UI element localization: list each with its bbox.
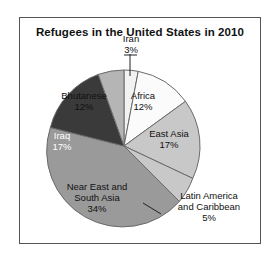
pie-label-near-east-name-line1: Near East and <box>67 181 128 192</box>
pie-label-iran-name: Iran <box>123 33 139 44</box>
pie-label-near-east-percent: 34% <box>42 203 152 214</box>
pie-label-latin-america-percent: 5% <box>160 212 258 223</box>
pie-label-near-east-name-line2: South Asia <box>42 192 152 203</box>
pie-label-iran: Iran 3% <box>96 33 166 55</box>
pie-label-near-east-south-asia: Near East and South Asia 34% <box>42 181 152 214</box>
pie-label-africa-name: Africa <box>131 90 155 101</box>
pie-label-east-asia: East Asia 17% <box>133 128 205 150</box>
pie-label-iraq: Iraq 17% <box>36 130 88 152</box>
pie-label-africa-percent: 12% <box>114 101 172 112</box>
pie-label-latin-america-name-line1: Latin America <box>180 190 238 201</box>
chart-frame: Refugees in the United States in 2010 <box>19 17 261 244</box>
pie-label-bhutanese-percent: 12% <box>46 101 122 112</box>
pie-label-iran-percent: 3% <box>96 44 166 55</box>
pie-label-africa: Africa 12% <box>114 90 172 112</box>
pie-label-latin-america-name-line2: and Caribbean <box>160 201 258 212</box>
pie-label-iraq-percent: 17% <box>36 141 88 152</box>
pie-label-east-asia-percent: 17% <box>133 139 205 150</box>
pie-label-latin-america: Latin America and Caribbean 5% <box>160 190 258 223</box>
pie-label-iraq-name: Iraq <box>54 130 70 141</box>
pie-label-bhutanese-name: Bhutanese <box>61 90 106 101</box>
pie-label-bhutanese: Bhutanese 12% <box>46 90 122 112</box>
pie-label-east-asia-name: East Asia <box>149 128 189 139</box>
